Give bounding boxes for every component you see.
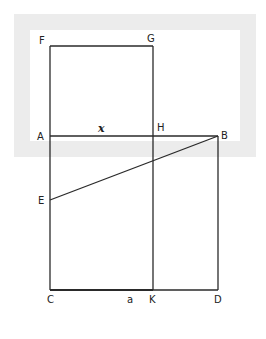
point-label-B: B	[221, 130, 228, 141]
point-label-H: H	[157, 122, 165, 133]
geometry-diagram: F G A x H B E C a K D	[0, 0, 266, 339]
segment-EB	[50, 136, 218, 200]
point-label-C: C	[47, 294, 54, 305]
segment-label-a: a	[127, 294, 133, 305]
point-label-G: G	[147, 33, 155, 44]
point-label-E: E	[38, 195, 44, 206]
point-label-K: K	[149, 294, 156, 305]
segment-label-x: x	[97, 122, 105, 135]
point-label-D: D	[214, 294, 222, 305]
point-label-F: F	[39, 35, 45, 46]
point-label-A: A	[37, 131, 44, 142]
